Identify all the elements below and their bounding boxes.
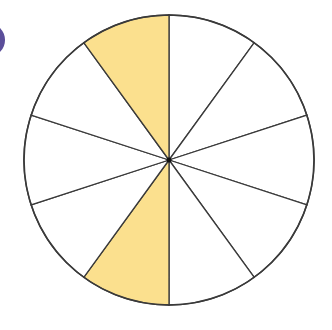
- fraction-figure: [0, 0, 332, 330]
- center-point: [167, 158, 172, 163]
- fraction-circle: [0, 0, 332, 330]
